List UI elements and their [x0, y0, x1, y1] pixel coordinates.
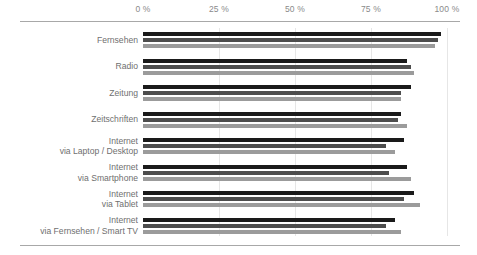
category-label: Fernsehen — [8, 35, 138, 46]
category-label: Zeitschriften — [8, 114, 138, 125]
x-axis-tick-label: 50 % — [285, 4, 305, 14]
bar-group — [143, 112, 477, 134]
category-label: Internet via Smartphone — [8, 162, 138, 183]
plot-area — [143, 28, 447, 240]
x-axis-tick-labels: 0 %25 %50 %75 %100 % — [143, 4, 447, 18]
bar — [143, 191, 414, 195]
bar — [143, 91, 401, 95]
category-labels: FernsehenRadioZeitungZeitschriftenIntern… — [5, 28, 138, 240]
bar — [143, 218, 395, 222]
bar-group — [143, 138, 477, 160]
bar — [143, 138, 404, 142]
category-label: Internet via Laptop / Desktop — [8, 136, 138, 157]
bar-chart: 0 %25 %50 %75 %100 % FernsehenRadioZeitu… — [0, 0, 477, 255]
bar — [143, 118, 398, 122]
bar — [143, 230, 401, 234]
bar — [143, 171, 389, 175]
category-label: Internet via Fernsehen / Smart TV — [8, 215, 138, 236]
bar-group — [143, 59, 477, 81]
bar — [143, 71, 414, 75]
bar-group — [143, 165, 477, 187]
bar — [143, 32, 441, 36]
x-axis-tick-label: 100 % — [434, 4, 459, 14]
bar — [143, 124, 407, 128]
category-label: Radio — [8, 61, 138, 72]
x-axis-tick-label: 75 % — [361, 4, 381, 14]
bar — [143, 85, 411, 89]
axis-bottom-rule — [20, 245, 460, 246]
bar — [143, 224, 386, 228]
bar-group — [143, 191, 477, 213]
bar — [143, 144, 386, 148]
bar-group — [143, 85, 477, 107]
bar — [143, 112, 401, 116]
bar — [143, 97, 401, 101]
bar-group — [143, 32, 477, 54]
bar — [143, 177, 411, 181]
bar — [143, 197, 404, 201]
category-label: Internet via Tablet — [8, 189, 138, 210]
axis-top-rule — [20, 21, 460, 22]
bar — [143, 65, 411, 69]
bar — [143, 165, 407, 169]
bar — [143, 203, 420, 207]
category-label: Zeitung — [8, 88, 138, 99]
bar — [143, 44, 435, 48]
x-axis-tick-label: 25 % — [209, 4, 229, 14]
bar-group — [143, 218, 477, 240]
bar — [143, 59, 407, 63]
bar — [143, 150, 395, 154]
bar — [143, 38, 438, 42]
x-axis-tick-label: 0 % — [135, 4, 150, 14]
